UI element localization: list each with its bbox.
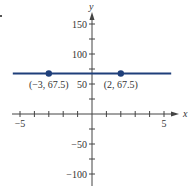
y-axis-arrow-icon: [90, 12, 95, 20]
data-point-marker: [46, 70, 52, 76]
data-point-label: (−3, 67.5): [29, 79, 69, 91]
y-tick-label: −100: [66, 169, 87, 180]
y-axis-label: y: [88, 1, 94, 12]
x-tick-label: −5: [15, 118, 26, 129]
chart: −5515010050−50−100 x y (−3, 67.5)(2, 67.…: [0, 0, 195, 189]
x-tick-label: 5: [162, 118, 167, 129]
data-point-label: (2, 67.5): [104, 79, 138, 91]
axes: [12, 12, 179, 186]
x-axis-label: x: [182, 108, 188, 119]
y-tick-label: 150: [72, 19, 87, 30]
y-tick-label: 100: [72, 49, 87, 60]
x-axis-arrow-icon: [171, 112, 179, 117]
y-tick-label: −50: [71, 139, 87, 150]
stray-mark: [0, 15, 2, 17]
y-tick-label: 50: [77, 79, 87, 90]
data-point-marker: [118, 70, 124, 76]
